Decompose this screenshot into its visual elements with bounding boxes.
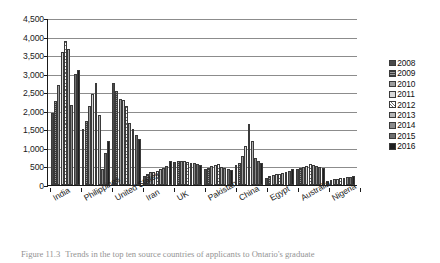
bar-group <box>173 19 204 185</box>
legend-item-label: 2014 <box>397 121 415 129</box>
bar <box>77 70 80 185</box>
legend-swatch-icon <box>389 70 396 77</box>
x-axis-tick <box>236 188 237 192</box>
x-axis-category-label: Iran <box>144 187 161 203</box>
y-axis-tick-label: 4,000 <box>0 33 44 41</box>
bar-group <box>112 19 143 185</box>
x-axis-tick <box>329 188 330 192</box>
bar <box>199 165 202 185</box>
legend-item[interactable]: 2012 <box>389 100 415 110</box>
x-axis-category-label: UK <box>175 188 190 202</box>
legend-item-label: 2013 <box>397 111 415 119</box>
legend-item[interactable]: 2013 <box>389 110 415 120</box>
legend-item-label: 2009 <box>397 69 415 77</box>
x-axis-tick <box>298 188 299 192</box>
y-axis-tick-label: 1,500 <box>0 126 44 134</box>
bar-group <box>326 19 357 185</box>
legend-item-label: 2016 <box>397 142 415 150</box>
figure-caption-text: Trends in the top ten source countries o… <box>65 249 314 259</box>
x-axis-tick <box>50 188 51 192</box>
legend-swatch-icon <box>389 143 396 150</box>
x-axis-tick <box>267 188 268 192</box>
legend-item[interactable]: 2011 <box>389 89 415 99</box>
x-axis-category-label: India <box>51 185 72 203</box>
bar-group <box>296 19 327 185</box>
x-axis-tick <box>360 188 361 192</box>
bar-group <box>265 19 296 185</box>
y-axis-tick-label: 500 <box>0 163 44 171</box>
y-axis-tick-label: 4,500 <box>0 15 44 23</box>
legend-item-label: 2015 <box>397 132 415 140</box>
bar <box>169 161 172 185</box>
bar-group <box>143 19 174 185</box>
bar-group <box>82 19 113 185</box>
figure-caption: Figure 11.3Trends in the top ten source … <box>21 249 440 259</box>
x-axis-tick <box>112 188 113 192</box>
legend-swatch-icon <box>389 60 396 67</box>
legend-swatch-icon <box>389 81 396 88</box>
bar-group <box>235 19 266 185</box>
y-axis-tick-label: 3,000 <box>0 70 44 78</box>
legend-item-label: 2012 <box>397 101 415 109</box>
legend-item-label: 2008 <box>397 59 415 67</box>
bar-group <box>51 19 82 185</box>
figure-number: Figure 11.3 <box>21 249 60 259</box>
legend-item[interactable]: 2009 <box>389 68 415 78</box>
y-axis-tick-label: 2,500 <box>0 89 44 97</box>
y-axis-tick-label: 1,000 <box>0 144 44 152</box>
legend-swatch-icon <box>389 112 396 119</box>
y-axis-tick-label: 0 <box>0 182 44 190</box>
x-axis-category-label: China <box>237 183 261 202</box>
legend-item-label: 2011 <box>397 90 415 98</box>
legend-item[interactable]: 2016 <box>389 141 415 151</box>
legend-item[interactable]: 2010 <box>389 79 415 89</box>
bar-groups <box>48 19 357 185</box>
x-axis-labels: IndiaPhilippinesUnited StatesIranUKPakis… <box>47 188 357 232</box>
x-axis-tick <box>143 188 144 192</box>
x-axis-category-label: Egypt <box>268 183 291 202</box>
legend-swatch-icon <box>389 122 396 129</box>
x-axis-tick <box>205 188 206 192</box>
chart-legend: 200820092010201120122013201420152016 <box>389 58 415 152</box>
figure-page: 4,5004,0003,5003,0002,5002,0001,5001,000… <box>0 0 440 263</box>
legend-item[interactable]: 2014 <box>389 120 415 130</box>
x-axis-tick <box>174 188 175 192</box>
legend-swatch-icon <box>389 91 396 98</box>
chart-plot-area <box>47 19 357 186</box>
y-axis-tick-label: 2,000 <box>0 107 44 115</box>
legend-item-label: 2010 <box>397 80 415 88</box>
x-axis-tick <box>81 188 82 192</box>
legend-item[interactable]: 2008 <box>389 58 415 68</box>
y-axis-tick <box>44 186 48 187</box>
legend-swatch-icon <box>389 133 396 140</box>
y-axis-tick-label: 3,500 <box>0 52 44 60</box>
legend-item[interactable]: 2015 <box>389 131 415 141</box>
legend-swatch-icon <box>389 101 396 108</box>
bar-group <box>204 19 235 185</box>
bar <box>291 169 294 185</box>
bar <box>260 163 263 185</box>
